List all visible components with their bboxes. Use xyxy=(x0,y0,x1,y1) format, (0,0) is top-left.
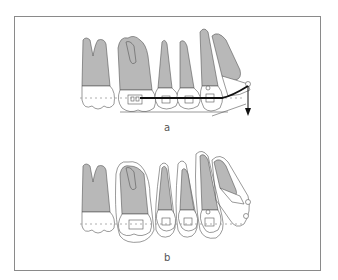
panel-label-b: b xyxy=(164,252,170,263)
molar-1-icon xyxy=(82,164,115,233)
molar-2-icon xyxy=(118,36,156,111)
panel-label-a: a xyxy=(164,122,170,133)
panel-b: b xyxy=(0,140,338,280)
panel-a: a xyxy=(0,0,338,140)
premolar-2-icon xyxy=(176,161,198,237)
teeth-diagram-a xyxy=(0,0,338,140)
premolar-1-icon xyxy=(156,163,176,237)
molar-2-icon xyxy=(116,162,155,243)
